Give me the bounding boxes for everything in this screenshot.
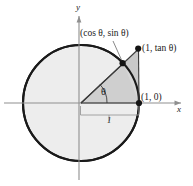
point-marker-cos-sin bbox=[120, 60, 126, 66]
radius-measure-label: 1 bbox=[107, 116, 111, 125]
unit-circle-diagram: y x (cos θ, sin θ) (1, tan θ) (1, 0) θ 1 bbox=[0, 0, 193, 186]
point-label-tangent: (1, tan θ) bbox=[142, 44, 176, 54]
tangent-segment bbox=[139, 50, 140, 104]
angle-label-theta: θ bbox=[101, 87, 106, 97]
point-label-unit: (1, 0) bbox=[141, 93, 162, 103]
point-label-cos-sin: (cos θ, sin θ) bbox=[80, 29, 129, 39]
y-axis-arrowhead bbox=[77, 16, 82, 23]
point-marker-tangent bbox=[135, 46, 141, 52]
y-axis-label: y bbox=[76, 3, 80, 12]
x-axis-label: x bbox=[177, 105, 181, 114]
